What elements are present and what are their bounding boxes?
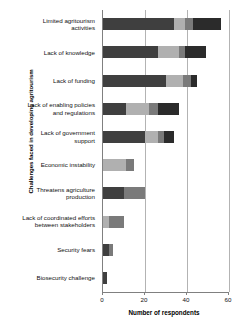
bar-segment: [126, 103, 149, 115]
category-label-line: production: [1, 193, 95, 201]
bar-segment: [109, 216, 124, 228]
bar-segment: [193, 18, 220, 30]
bar-segment: [103, 18, 174, 30]
bar-row: [103, 159, 134, 171]
category-label-line: Lack of enabling policies: [1, 101, 95, 109]
bar-segment: [149, 103, 157, 115]
bar-segment: [103, 272, 107, 284]
x-axis-tick-label: 20: [132, 296, 156, 303]
bar-segment: [145, 131, 158, 143]
category-label: Lack of governmentsupport: [1, 129, 95, 144]
bar-segment: [103, 103, 126, 115]
bar-segment: [109, 244, 113, 256]
x-axis-tick-label: 60: [216, 296, 238, 303]
bar-row: [103, 131, 174, 143]
category-label-line: Lack of coordinated efforts: [1, 214, 95, 222]
category-label: Security fears: [1, 246, 95, 254]
x-axis-tick: [186, 292, 187, 295]
bar-row: [103, 18, 221, 30]
x-axis-tick-label: 0: [90, 296, 114, 303]
bar-segment: [124, 187, 145, 199]
category-label: Lack of coordinated effortsbetween stake…: [1, 214, 95, 229]
bar-segment: [166, 75, 183, 87]
category-label-line: between stakeholders: [1, 221, 95, 229]
y-axis-category-labels: Limited agritourismactivitiesLack of kno…: [2, 10, 98, 292]
category-label-line: activities: [1, 24, 95, 32]
bar-segment: [103, 131, 145, 143]
bar-segment: [183, 75, 191, 87]
category-label-line: support: [1, 137, 95, 145]
bar-segment: [174, 18, 185, 30]
bar-row: [103, 75, 197, 87]
category-label-line: Security fears: [1, 246, 95, 254]
bar-row: [103, 244, 113, 256]
category-label-line: Economic instability: [1, 161, 95, 169]
plot-area: [102, 10, 229, 292]
x-axis-tick-label: 40: [174, 296, 198, 303]
bar-segment: [158, 46, 179, 58]
category-label-line: Threatens agriculture: [1, 186, 95, 194]
category-label-line: Lack of knowledge: [1, 49, 95, 57]
x-axis-tick: [144, 292, 145, 295]
category-label: Threatens agricultureproduction: [1, 186, 95, 201]
bar-segment: [185, 46, 206, 58]
bar-row: [103, 216, 124, 228]
x-axis-line: [102, 292, 228, 293]
bar-segment: [103, 187, 124, 199]
category-label-line: and regulations: [1, 109, 95, 117]
category-label-line: Lack of government: [1, 129, 95, 137]
bar-segment: [103, 159, 126, 171]
bar-row: [103, 272, 107, 284]
bar-segment: [191, 75, 197, 87]
category-label-line: Biosecurity challenge: [1, 274, 95, 282]
bar-row: [103, 103, 179, 115]
category-label: Lack of funding: [1, 77, 95, 85]
category-label: Biosecurity challenge: [1, 274, 95, 282]
bar-row: [103, 46, 206, 58]
bar-chart: Challenges faced in developing agritouri…: [0, 0, 238, 324]
bar-segment: [103, 46, 158, 58]
category-label: Limited agritourismactivities: [1, 17, 95, 32]
bar-segment: [103, 75, 166, 87]
category-label-line: Limited agritourism: [1, 17, 95, 25]
gridline: [229, 10, 230, 292]
category-label: Lack of enabling policiesand regulations: [1, 101, 95, 116]
category-label: Economic instability: [1, 161, 95, 169]
x-axis-tick: [228, 292, 229, 295]
bar-segment: [158, 103, 179, 115]
bar-segment: [164, 131, 175, 143]
category-label-line: Lack of funding: [1, 77, 95, 85]
x-axis-title: Number of respondents: [90, 309, 238, 316]
bar-row: [103, 187, 145, 199]
bar-segment: [185, 18, 193, 30]
x-axis-tick: [102, 292, 103, 295]
bar-segment: [126, 159, 134, 171]
category-label: Lack of knowledge: [1, 49, 95, 57]
